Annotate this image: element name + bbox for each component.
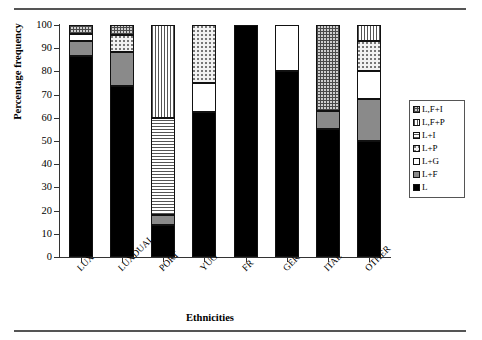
legend-item-lf[interactable]: L+F bbox=[413, 168, 462, 181]
legend-item-lp[interactable]: L+P bbox=[413, 142, 462, 155]
y-tick-label: 0 bbox=[12, 252, 52, 262]
legend-label: L+G bbox=[422, 157, 439, 166]
bar-segment-l bbox=[110, 86, 134, 257]
y-tick-label: 80 bbox=[12, 66, 52, 76]
bar-ital bbox=[316, 25, 340, 257]
bottom-divider bbox=[14, 330, 466, 332]
bar-segment-lfp bbox=[151, 25, 175, 118]
bar-segment-lf bbox=[69, 41, 93, 56]
legend-swatch-icon bbox=[413, 106, 420, 113]
bar-segment-l bbox=[316, 129, 340, 257]
y-tick-label: 10 bbox=[12, 229, 52, 239]
bar-segment-li bbox=[151, 118, 175, 215]
legend-swatch-icon bbox=[413, 171, 420, 178]
legend-swatch-icon bbox=[413, 119, 420, 126]
figure: Percentage frequency Ethnicities 0102030… bbox=[0, 0, 482, 340]
bar-segment-lg bbox=[357, 71, 381, 99]
y-tick-label: 100 bbox=[12, 20, 52, 30]
legend-label: L+P bbox=[422, 144, 438, 153]
bar-yug bbox=[192, 25, 216, 257]
bar-segment-l bbox=[69, 56, 93, 257]
bar-segment-lg bbox=[69, 34, 93, 41]
y-tick-label: 50 bbox=[12, 136, 52, 146]
x-tick-label-fr: FR bbox=[240, 258, 255, 273]
bar-segment-lfi bbox=[69, 25, 93, 34]
bar-segment-lf bbox=[110, 52, 134, 87]
legend-item-lfp[interactable]: L,F+P bbox=[413, 116, 462, 129]
y-tick-label: 20 bbox=[12, 206, 52, 216]
legend-label: L+F bbox=[422, 170, 438, 179]
x-axis-title: Ethnicities bbox=[0, 312, 420, 323]
bar-port bbox=[151, 25, 175, 257]
y-tick bbox=[54, 257, 59, 258]
y-tick bbox=[54, 118, 59, 119]
y-tick bbox=[54, 234, 59, 235]
bar-segment-lp bbox=[110, 35, 134, 51]
y-tick bbox=[54, 71, 59, 72]
bar-segment-lp bbox=[357, 41, 381, 71]
bar-segment-l bbox=[151, 225, 175, 257]
legend-swatch-icon bbox=[413, 158, 420, 165]
y-tick bbox=[54, 95, 59, 96]
legend-item-lfi[interactable]: L,F+I bbox=[413, 103, 462, 116]
bar-segment-lf bbox=[316, 111, 340, 130]
y-tick-label: 40 bbox=[12, 159, 52, 169]
y-tick bbox=[54, 164, 59, 165]
bar-segment-lf bbox=[357, 99, 381, 141]
legend-swatch-icon bbox=[413, 184, 420, 191]
bar-lux bbox=[69, 25, 93, 257]
legend-item-lg[interactable]: L+G bbox=[413, 155, 462, 168]
legend-item-l[interactable]: L bbox=[413, 181, 462, 194]
bar-segment-lp bbox=[192, 25, 216, 83]
bar-other bbox=[357, 25, 381, 257]
plot-area bbox=[60, 25, 390, 257]
y-tick bbox=[54, 211, 59, 212]
y-tick-label: 70 bbox=[12, 90, 52, 100]
bar-segment-lg bbox=[275, 25, 299, 71]
y-tick bbox=[54, 25, 59, 26]
y-tick-label: 90 bbox=[12, 43, 52, 53]
y-tick bbox=[54, 141, 59, 142]
legend-swatch-icon bbox=[413, 145, 420, 152]
bar-fr bbox=[234, 25, 258, 257]
legend-label: L,F+I bbox=[422, 105, 443, 114]
bar-segment-lfi bbox=[110, 25, 134, 35]
legend-label: L,F+P bbox=[422, 118, 445, 127]
y-tick bbox=[54, 48, 59, 49]
y-tick-label: 30 bbox=[12, 182, 52, 192]
legend-swatch-icon bbox=[413, 132, 420, 139]
bar-segment-lfp bbox=[357, 25, 381, 41]
bar-segment-l bbox=[357, 141, 381, 257]
bar-segment-l bbox=[192, 112, 216, 257]
bar-luxdual bbox=[110, 25, 134, 257]
bar-ger bbox=[275, 25, 299, 257]
legend-label: L bbox=[422, 183, 428, 192]
legend-label: L+I bbox=[422, 131, 436, 140]
y-tick-label: 60 bbox=[12, 113, 52, 123]
bar-segment-lg bbox=[192, 83, 216, 112]
bar-segment-lfi bbox=[316, 25, 340, 111]
bar-segment-l bbox=[275, 71, 299, 257]
legend: L,F+IL,F+PL+IL+PL+GL+FL bbox=[409, 100, 465, 198]
y-tick bbox=[54, 187, 59, 188]
top-divider bbox=[14, 8, 466, 10]
legend-item-li[interactable]: L+I bbox=[413, 129, 462, 142]
bar-segment-l bbox=[234, 25, 258, 257]
bar-segment-lf bbox=[151, 215, 175, 224]
